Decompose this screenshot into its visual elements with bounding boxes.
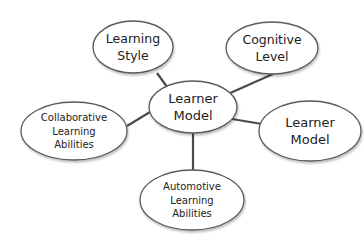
node-collaborative-learning-abilities: CollaborativeLearningAbilities bbox=[21, 102, 127, 160]
node-learner-model-right-label-line: Model bbox=[290, 132, 329, 147]
edge-learner-model-right bbox=[232, 119, 262, 124]
node-learner-model-center-ellipse bbox=[149, 81, 237, 133]
node-learner-model-center-label-line: Learner bbox=[168, 91, 218, 106]
node-learner-model-center: LearnerModel bbox=[149, 81, 237, 133]
node-cognitive-level-label-line: Level bbox=[256, 49, 289, 64]
node-learning-style-label-line: Learning bbox=[106, 31, 160, 46]
edge-cognitive-level bbox=[228, 74, 273, 94]
node-cognitive-level-label-line: Cognitive bbox=[242, 32, 301, 47]
node-collaborative-learning-abilities-label-line: Collaborative bbox=[41, 112, 107, 123]
node-learner-model-right-ellipse bbox=[259, 101, 361, 161]
node-collaborative-learning-abilities-label-line: Abilities bbox=[54, 139, 94, 150]
node-learner-model-right: LearnerModel bbox=[259, 101, 361, 161]
node-learner-model-right-label-line: Learner bbox=[285, 115, 335, 130]
node-learning-style-label-line: Style bbox=[117, 48, 149, 63]
node-automotive-learning-abilities-label-line: Abilities bbox=[172, 208, 212, 219]
node-automotive-learning-abilities-label-line: Learning bbox=[170, 195, 213, 206]
node-collaborative-learning-abilities-label-line: Learning bbox=[52, 126, 95, 137]
learner-model-diagram: LearningStyleCognitiveLevelCollaborative… bbox=[0, 0, 364, 243]
node-automotive-learning-abilities-label-line: Automotive bbox=[163, 181, 221, 192]
diagram-nodes: LearningStyleCognitiveLevelCollaborative… bbox=[21, 21, 361, 230]
node-learning-style: LearningStyle bbox=[93, 21, 173, 73]
edge-collaborative-learning-abilities bbox=[127, 112, 150, 126]
node-cognitive-level: CognitiveLevel bbox=[226, 22, 318, 74]
node-learner-model-center-label-line: Model bbox=[173, 108, 212, 123]
node-automotive-learning-abilities: AutomotiveLearningAbilities bbox=[140, 170, 244, 230]
